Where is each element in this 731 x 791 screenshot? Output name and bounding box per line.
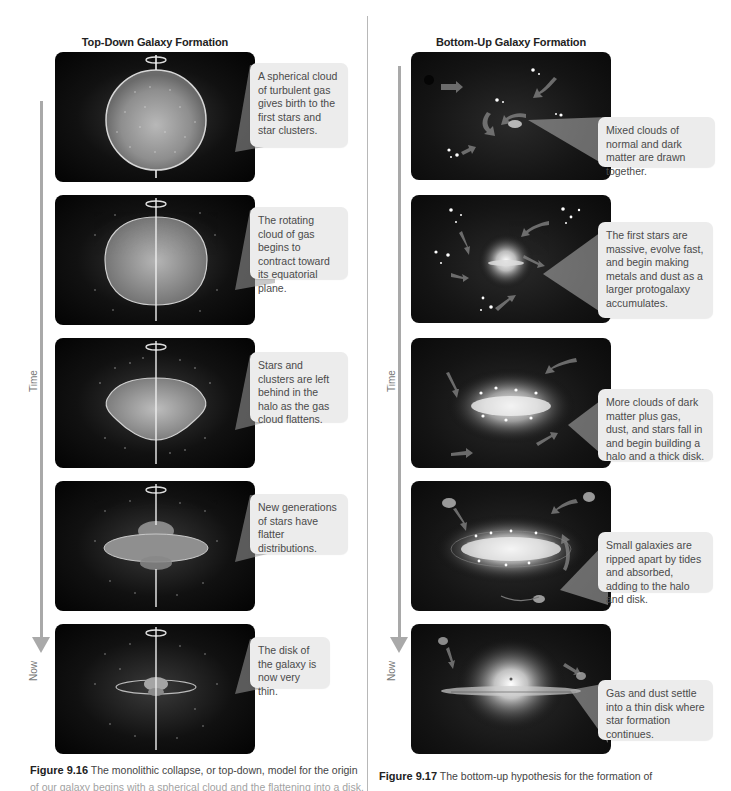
left-figure-caption: Figure 9.16 The monolithic collapse, or … bbox=[30, 764, 358, 776]
left-panel-4-flatter-distributions bbox=[55, 481, 255, 611]
right-callout-1-pointer bbox=[528, 112, 608, 172]
right-time-arrow-head-icon bbox=[390, 637, 408, 653]
right-figure-text: The bottom-up hypothesis for the formati… bbox=[440, 770, 652, 782]
left-figure-label: Figure 9.16 bbox=[30, 764, 88, 776]
left-column-title: Top-Down Galaxy Formation bbox=[55, 36, 255, 48]
right-callout-1: Mixed clouds of normal and dark matter a… bbox=[598, 117, 715, 167]
right-callout-4: Small galaxies are ripped apart by tides… bbox=[598, 532, 713, 592]
left-panel-5-thin-disk bbox=[55, 624, 255, 754]
left-time-arrow-shaft bbox=[40, 101, 43, 641]
right-time-label: Time bbox=[386, 370, 397, 392]
left-callout-3: Stars and clusters are left behind in th… bbox=[250, 352, 348, 422]
right-figure-label: Figure 9.17 bbox=[379, 770, 437, 782]
flatter-distribution-illustration bbox=[55, 481, 255, 611]
left-time-arrow-head-icon bbox=[32, 637, 50, 653]
flattening-cloud-illustration bbox=[55, 338, 255, 468]
left-panel-3-flattening-cloud bbox=[55, 338, 255, 468]
left-panel-2-rotating-cloud bbox=[55, 195, 255, 325]
left-figure-text: The monolithic collapse, or top-down, mo… bbox=[91, 764, 358, 776]
right-callout-5: Gas and dust settle into a thin disk whe… bbox=[598, 680, 713, 740]
left-now-label: Now bbox=[28, 661, 39, 681]
right-callout-2: The first stars are massive, evolve fast… bbox=[598, 222, 713, 318]
right-figure-caption: Figure 9.17 The bottom-up hypothesis for… bbox=[379, 770, 652, 782]
left-figure-caption-continuation: of our galaxy begins with a spherical cl… bbox=[30, 781, 364, 791]
spherical-cloud-illustration bbox=[55, 52, 255, 182]
right-now-label: Now bbox=[386, 661, 397, 681]
rotating-cloud-illustration bbox=[55, 195, 255, 325]
thin-disk-illustration bbox=[55, 624, 255, 754]
left-callout-5: The disk of the galaxy is now very thin. bbox=[250, 637, 330, 688]
right-time-arrow-shaft bbox=[398, 66, 401, 641]
column-divider bbox=[367, 16, 368, 791]
right-callout-3: More clouds of dark matter plus gas, dus… bbox=[598, 389, 713, 461]
protogalaxy-core bbox=[508, 120, 522, 128]
left-time-label: Time bbox=[28, 370, 39, 392]
left-callout-2: The rotating cloud of gas begins to cont… bbox=[250, 207, 348, 279]
left-panel-1-spherical-cloud bbox=[55, 52, 255, 182]
left-callout-4: New generations of stars have flatter di… bbox=[250, 494, 348, 554]
left-callout-1: A spherical cloud of turbulent gas gives… bbox=[250, 63, 348, 147]
right-column-title: Bottom-Up Galaxy Formation bbox=[411, 36, 611, 48]
